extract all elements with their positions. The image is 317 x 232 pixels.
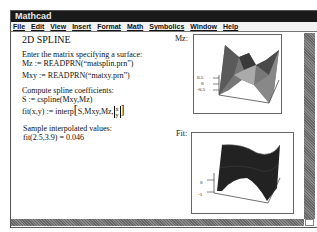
plot-mz-label: Mz: <box>175 34 188 43</box>
plot-fit-label: Fit: <box>176 129 187 138</box>
surface-fit-graphic <box>192 133 295 215</box>
menu-symbolics[interactable]: Symbolics <box>149 22 184 31</box>
mz-axis-ticks: 0.5 0 -0.5 <box>197 75 205 93</box>
math-region-mz[interactable]: Mz := READPRN(“matsplin.prn”) <box>22 59 133 68</box>
worksheet-heading[interactable]: 2D SPLINE <box>22 35 71 44</box>
fit-axis-ticks: 0 -1 <box>200 177 203 201</box>
window-title: Mathcad <box>15 11 52 21</box>
surface-plot-mz[interactable]: 0.5 0 -0.5 <box>193 34 282 114</box>
menu-bar: File Edit View Insert Format Math Symbol… <box>11 22 317 32</box>
fit-def-prefix: fit(x,y) := interp <box>22 107 74 116</box>
text-region-sample[interactable]: Sample interpolated values: <box>23 124 112 133</box>
menu-file[interactable]: File <box>13 22 25 31</box>
fit-def-args: S,Mxy,Mz, <box>78 107 114 116</box>
menu-math[interactable]: Math <box>127 22 143 31</box>
text-region-compute[interactable]: Compute spline coefficients: <box>22 86 114 95</box>
scrollbar-corner <box>305 219 314 226</box>
surface-mz-graphic <box>194 35 283 115</box>
menu-window[interactable]: Window <box>190 22 217 31</box>
bracket-close: ] <box>121 103 125 117</box>
math-region-fit-eval[interactable]: fit(2.5,3.9) = 0.046 <box>23 133 84 142</box>
mathcad-window: Mathcad File Edit View Insert Format Mat… <box>10 10 317 228</box>
math-region-mxy[interactable]: Mxy := READPRN(“matxy.prn”) <box>22 71 130 80</box>
menu-format[interactable]: Format <box>97 22 121 31</box>
text-region-intro[interactable]: Enter the matrix specifying a surface: <box>22 50 142 59</box>
math-region-fit-def[interactable]: fit(x,y) := interp[S,Mxy,Mz,xy] <box>22 106 125 118</box>
menu-view[interactable]: View <box>50 22 66 31</box>
menu-insert[interactable]: Insert <box>72 22 91 31</box>
title-bar[interactable]: Mathcad <box>11 11 317 22</box>
worksheet[interactable]: 2D SPLINE Enter the matrix specifying a … <box>11 33 304 219</box>
menu-help[interactable]: Help <box>223 22 238 31</box>
horizontal-scrollbar[interactable] <box>11 219 304 226</box>
menu-edit[interactable]: Edit <box>31 22 44 31</box>
math-region-cspline[interactable]: S := cspline(Mxy,Mz) <box>22 95 92 104</box>
xy-vector: xy <box>114 106 121 118</box>
surface-plot-fit[interactable]: 0 -1 <box>191 132 294 214</box>
vertical-scrollbar[interactable] <box>304 33 315 219</box>
